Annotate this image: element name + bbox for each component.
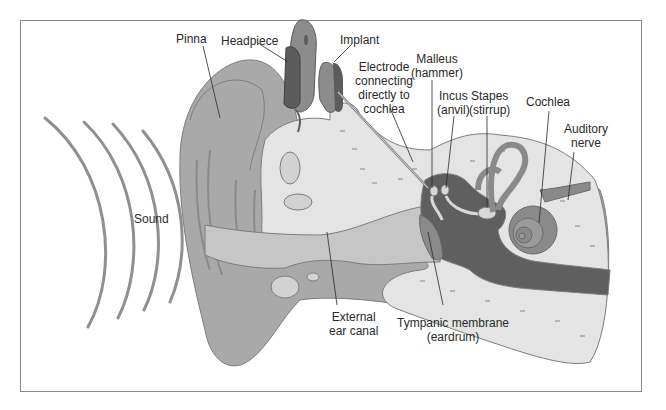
label-stapes: Stapes (stirrup) [469,89,510,117]
label-headpiece: Headpiece [221,34,278,48]
label-malleus: Malleus (hammer) [411,52,463,80]
label-external-ear-canal: External ear canal [329,310,378,338]
ear-anatomy-illustration [0,0,666,410]
label-incus: Incus (anvil) [437,89,470,117]
cochlea-spiral [509,206,557,254]
label-implant: Implant [340,33,379,47]
label-auditory-nerve: Auditory nerve [564,122,608,150]
label-pinna: Pinna [176,32,207,46]
label-sound: Sound [134,212,169,226]
label-cochlea: Cochlea [526,95,570,109]
label-electrode: Electrode connecting directly to cochlea [355,60,413,116]
label-tympanic-membrane: Tympanic membrane (eardrum) [397,316,509,344]
